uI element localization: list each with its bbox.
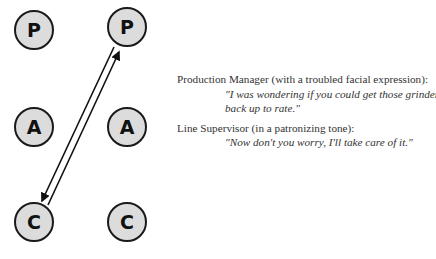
dialogue-turn-supervisor: Line Supervisor (in a patronizing tone):… xyxy=(177,121,436,150)
dialogue-block: Production Manager (with a troubled faci… xyxy=(177,72,436,150)
quote-line: "Now don't you worry, I'll take care of … xyxy=(177,135,436,150)
transaction-arrows xyxy=(0,0,170,259)
transaction-diagram: P A C P A C xyxy=(0,0,170,259)
dialogue-turn-manager: Production Manager (with a troubled faci… xyxy=(177,72,436,116)
quote-line: "I was wondering if you could get those … xyxy=(177,87,436,102)
arrow-to-parent-icon xyxy=(48,52,119,205)
speaker-label: Production Manager (with a troubled faci… xyxy=(177,72,436,87)
quote-line: back up to rate." xyxy=(177,101,436,116)
speaker-label: Line Supervisor (in a patronizing tone): xyxy=(177,121,436,136)
arrow-to-child-icon xyxy=(42,47,114,201)
